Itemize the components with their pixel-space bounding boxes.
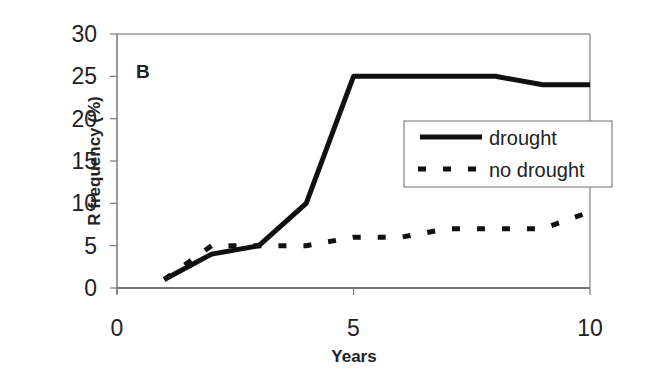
legend-label-no-drought: no drought: [489, 159, 585, 181]
line-chart: 051015202530 0510 B R frequency (%) Year…: [0, 0, 647, 384]
series-line-no-drought: [164, 212, 590, 280]
x-tick-label: 10: [577, 315, 603, 341]
legend: drought no drought: [404, 121, 612, 187]
x-axis: 0510: [111, 288, 603, 341]
y-tick-label: 25: [71, 63, 97, 89]
y-tick-label: 30: [71, 21, 97, 47]
legend-label-drought: drought: [489, 127, 557, 149]
x-tick-label: 0: [111, 315, 124, 341]
panel-label: B: [136, 61, 150, 82]
y-tick-label: 5: [84, 233, 97, 259]
x-tick-label: 5: [347, 315, 360, 341]
y-tick-label: 0: [84, 275, 97, 301]
y-axis-title: R frequency (%): [85, 96, 104, 225]
x-axis-title: Years: [331, 347, 376, 366]
